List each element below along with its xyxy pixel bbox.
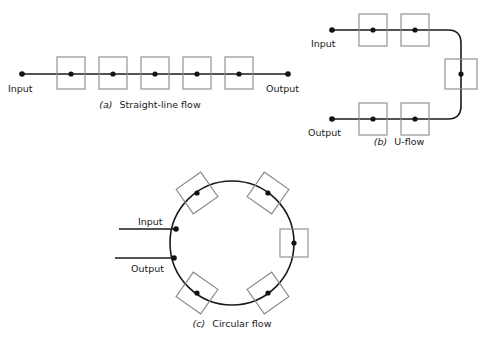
diagram-straight-line-flow: Input Output (a) Straight-line flow [8,57,299,110]
flow-patterns-figure: Input Output (a) Straight-line flow Inpu… [0,0,488,340]
diagram-u-flow: Input Output (b) U-flow [308,14,477,147]
diagram-caption: (c) Circular flow [193,318,272,329]
station-dot [265,290,270,295]
output-label: Output [308,127,341,138]
station-dot [152,71,157,76]
station-dot [370,116,375,121]
station-dot [236,71,241,76]
station-dot [412,27,417,32]
station-dot [194,290,199,295]
circular-flow-line [170,181,294,305]
caption-tag: (c) [193,318,206,329]
output-dot [171,255,177,261]
output-dot [285,71,291,77]
caption-tag: (a) [99,99,112,110]
station-dot [370,27,375,32]
input-dot [329,27,335,33]
station-dot [458,71,463,76]
u-flow-line [332,30,461,119]
station-dot [265,190,270,195]
caption-tag: (b) [374,136,387,147]
input-label: Input [311,38,336,49]
caption-text: Straight-line flow [120,99,201,110]
input-dot [19,71,25,77]
input-dot [173,226,179,232]
caption-text: U-flow [394,136,424,147]
diagram-circular-flow: Input Output (c) Circular flow [115,172,308,329]
diagram-caption: (b) U-flow [374,136,425,147]
caption-text: Circular flow [212,318,271,329]
output-dot [329,116,335,122]
output-label: Output [266,83,299,94]
output-label: Output [131,263,164,274]
station-dot [110,71,115,76]
station-dot [194,71,199,76]
station-dot [291,240,296,245]
input-label: Input [138,216,163,227]
input-label: Input [8,83,33,94]
station-dot [412,116,417,121]
station-dot [194,190,199,195]
diagram-caption: (a) Straight-line flow [99,99,201,110]
station-dot [68,71,73,76]
